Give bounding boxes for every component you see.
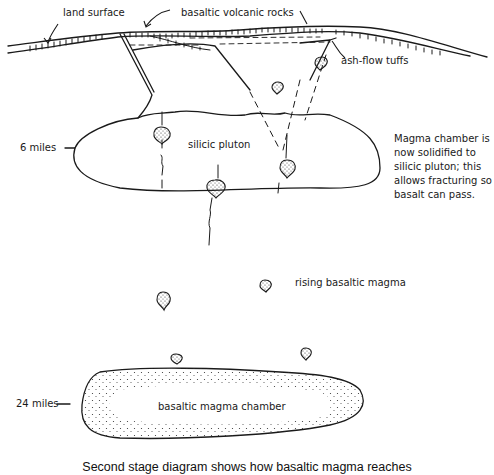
magma-blob-icon: [207, 180, 225, 198]
magma-blob-icon: [260, 280, 271, 292]
twenty-four-miles-label: 24 miles: [16, 398, 59, 410]
basaltic-volcanic-rocks-label: basaltic volcanic rocks: [181, 7, 294, 19]
fault-left-inner: [133, 44, 250, 90]
magma-blobs: [154, 57, 327, 364]
magma-blob-icon: [301, 348, 311, 360]
fault-left: [120, 34, 152, 118]
magma-blob-icon: [171, 354, 182, 364]
magma-blob-icon: [315, 57, 327, 70]
silicic-pluton-label: silicic pluton: [188, 139, 250, 151]
magma-blob-icon: [272, 82, 283, 94]
figure-caption: Second stage diagram shows how basaltic …: [0, 460, 494, 474]
magma-blob-icon: [280, 160, 295, 178]
magma-blob-icon: [157, 292, 170, 310]
explanation-note: Magma chamber is now solidified to silic…: [394, 132, 494, 202]
land-surface-label: land surface: [63, 7, 125, 19]
magma-blob-icon: [154, 127, 170, 144]
ash-flow-tuffs-label: ash-flow tuffs: [341, 55, 408, 67]
basaltic-magma-chamber-label: basaltic magma chamber: [158, 401, 286, 413]
land-surface-line: [8, 26, 487, 57]
rising-basaltic-magma-label: rising basaltic magma: [295, 277, 406, 289]
six-miles-label: 6 miles: [20, 142, 56, 154]
